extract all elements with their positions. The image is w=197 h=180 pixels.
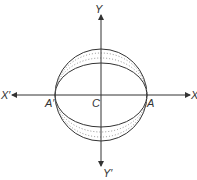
label-y-prime: Y′ <box>103 167 113 179</box>
label-center-c: C <box>92 97 100 109</box>
label-x-prime: X′ <box>0 89 11 101</box>
sphere-diagram: Y Y′ X′ X C A A′ <box>0 0 197 180</box>
label-point-a-prime: A′ <box>44 97 55 109</box>
label-x: X <box>190 89 197 101</box>
label-point-a: A <box>146 97 154 109</box>
label-y: Y <box>95 3 103 15</box>
